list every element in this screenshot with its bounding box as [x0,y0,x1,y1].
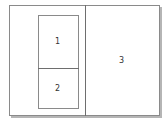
pane-3-label: 3 [119,57,124,65]
pane-1-label: 1 [55,38,60,46]
vertical-divider [85,5,86,116]
horizontal-divider [38,68,79,69]
pane-2-label: 2 [55,85,60,93]
